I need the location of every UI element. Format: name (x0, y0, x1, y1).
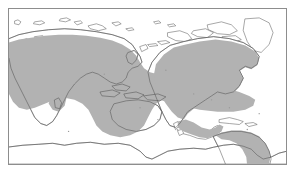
caribbean-islands (219, 118, 257, 127)
arctic-islands (15, 18, 176, 31)
distribution-map-figure (0, 0, 296, 175)
map-frame (8, 8, 287, 165)
world-map-svg (9, 9, 286, 164)
